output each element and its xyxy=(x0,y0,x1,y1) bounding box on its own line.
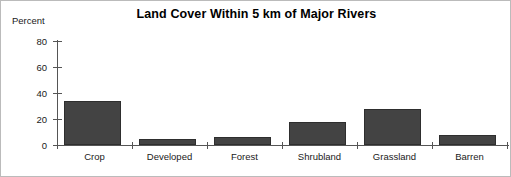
x-tick-mark-5 xyxy=(432,142,433,149)
y-axis-label: Percent xyxy=(12,15,45,26)
x-tick-mark-6 xyxy=(507,142,508,149)
y-tick-label-20: 20 xyxy=(13,114,47,125)
x-tick-label-grassland: Grassland xyxy=(357,151,432,162)
bar-barren[interactable] xyxy=(439,135,496,145)
y-tick-mark-40 xyxy=(53,93,62,94)
x-tick-label-forest: Forest xyxy=(207,151,282,162)
bar-forest[interactable] xyxy=(214,137,271,145)
chart-title: Land Cover Within 5 km of Major Rivers xyxy=(1,7,511,21)
bar-developed[interactable] xyxy=(139,139,196,146)
x-tick-mark-0 xyxy=(57,142,58,149)
x-tick-mark-3 xyxy=(282,142,283,149)
y-tick-label-40: 40 xyxy=(13,88,47,99)
x-tick-mark-2 xyxy=(207,142,208,149)
bar-grassland[interactable] xyxy=(364,109,421,145)
bar-crop[interactable] xyxy=(64,101,121,145)
bar-shrubland[interactable] xyxy=(289,122,346,145)
x-tick-mark-1 xyxy=(132,142,133,149)
y-tick-label-80: 80 xyxy=(13,36,47,47)
chart-figure: Land Cover Within 5 km of Major Rivers P… xyxy=(0,0,511,177)
y-tick-label-0: 0 xyxy=(13,140,47,151)
y-tick-mark-60 xyxy=(53,67,62,68)
x-tick-label-shrubland: Shrubland xyxy=(282,151,357,162)
x-tick-mark-4 xyxy=(357,142,358,149)
x-axis-line xyxy=(57,145,509,146)
y-tick-mark-80 xyxy=(53,41,62,42)
y-tick-mark-20 xyxy=(53,119,62,120)
y-tick-label-60: 60 xyxy=(13,62,47,73)
x-tick-label-developed: Developed xyxy=(132,151,207,162)
x-tick-label-crop: Crop xyxy=(57,151,132,162)
x-tick-label-barren: Barren xyxy=(432,151,507,162)
